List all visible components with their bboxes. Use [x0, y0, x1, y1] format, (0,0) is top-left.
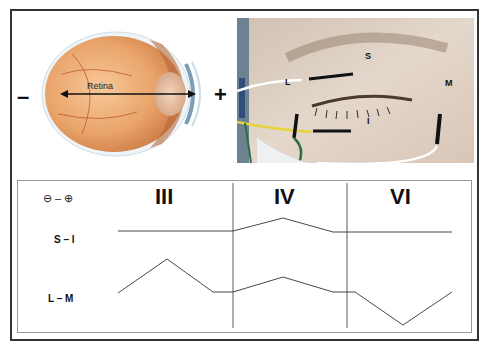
electrode-label-l: L	[285, 77, 291, 87]
face-with-electrodes-image	[237, 18, 474, 163]
column-header-vi: VI	[390, 184, 411, 210]
negative-icon: ⊖	[43, 192, 52, 204]
column-header-iv: IV	[274, 184, 295, 210]
row-label-l-m: L – M	[48, 293, 73, 304]
retina-label: Retina	[87, 81, 113, 91]
electrode-label-i: I	[367, 116, 370, 126]
plus-sign: +	[214, 82, 227, 108]
dash: –	[55, 192, 61, 204]
face-photo: S L M I	[237, 18, 474, 163]
electrode-label-m: M	[445, 78, 453, 88]
eyeball-illustration	[12, 14, 232, 164]
row-label-s-i: S – I	[54, 234, 75, 245]
polarity-legend: ⊖ – ⊕	[43, 192, 73, 205]
column-header-iii: III	[155, 184, 173, 210]
eye-diagram: – + Retina	[12, 14, 232, 164]
positive-icon: ⊕	[64, 192, 73, 204]
minus-sign: –	[17, 84, 29, 110]
electrode-label-s: S	[365, 51, 371, 61]
